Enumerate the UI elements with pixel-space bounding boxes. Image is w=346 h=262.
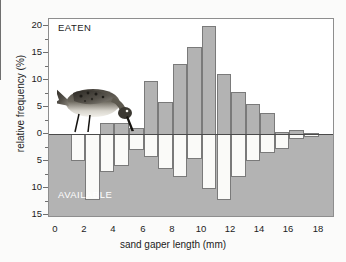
eaten-label: EATEN [58, 22, 91, 33]
bar-eaten [202, 26, 217, 135]
y-tick-label: 10 [18, 74, 42, 84]
plot-area: EATEN AVAILABLE [48, 18, 334, 217]
bar-eaten [144, 81, 159, 135]
y-tick-label: 5 [18, 155, 42, 165]
bar-eaten [231, 92, 246, 135]
bar-eaten [173, 64, 188, 135]
bar-eaten [217, 74, 232, 135]
bar-eaten [187, 47, 202, 135]
x-tick-label: 16 [278, 224, 298, 234]
y-tick-label: 5 [18, 101, 42, 111]
bar-eaten [158, 102, 173, 135]
y-tick-label: 20 [18, 20, 42, 30]
y-tick-label: 0 [18, 128, 42, 138]
x-axis-title: sand gaper length (mm) [0, 239, 346, 250]
y-tick-label: 15 [18, 209, 42, 219]
available-label: AVAILABLE [58, 189, 112, 200]
x-tick-label: 2 [74, 224, 94, 234]
y-tick-label: 15 [18, 47, 42, 57]
x-tick-label: 12 [220, 224, 240, 234]
x-tick-label: 18 [308, 224, 328, 234]
x-tick-label: 8 [162, 224, 182, 234]
bar-eaten [260, 113, 275, 135]
series-eaten-bars [49, 19, 333, 216]
x-tick-mark-minor [0, 77, 1, 80]
figure-panel: relative frequency (%) 2015105051015 [0, 0, 346, 262]
x-tick-label: 4 [103, 224, 123, 234]
x-tick-label: 0 [45, 224, 65, 234]
zero-baseline [49, 134, 333, 135]
bar-eaten [246, 104, 261, 135]
x-tick-label: 6 [133, 224, 153, 234]
y-tick-label: 10 [18, 182, 42, 192]
x-tick-label: 14 [249, 224, 269, 234]
x-tick-label: 10 [191, 224, 211, 234]
